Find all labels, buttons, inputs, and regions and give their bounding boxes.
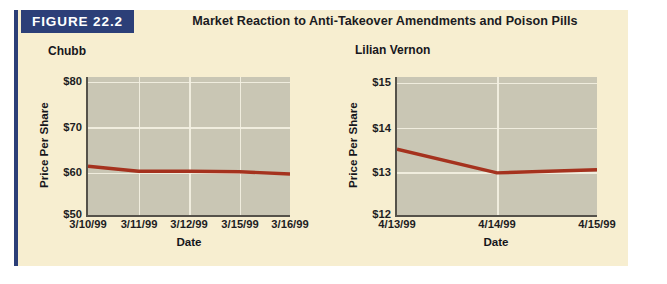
y-axis-title: Price Per Share	[346, 102, 359, 188]
x-tick-label: 3/12/99	[170, 218, 207, 230]
y-tick-label: $80	[40, 75, 82, 87]
y-tick-label: $15	[349, 76, 391, 88]
chart-lilian-vernon: Lilian Vernon $15 $14 $13 $12 4/13/99 4/…	[310, 0, 640, 284]
chart-chubb: Chubb $80 $70 $60 $50 3/10/99 3/11/99 3/…	[0, 0, 330, 284]
x-axis-title: Date	[483, 235, 508, 248]
x-axis-line	[86, 215, 290, 217]
x-axis-line	[395, 215, 597, 217]
x-tick-label: 3/10/99	[69, 218, 106, 230]
y-axis-line	[395, 77, 397, 217]
chart-subtitle: Lilian Vernon	[355, 43, 430, 57]
y-axis-title: Price Per Share	[37, 102, 50, 188]
y-axis-line	[86, 77, 88, 217]
figure-container: FIGURE 22.2 Market Reaction to Anti-Take…	[0, 0, 667, 284]
x-tick-label: 4/13/99	[378, 218, 415, 230]
x-tick-label: 4/14/99	[478, 218, 515, 230]
x-tick-label: 3/16/99	[271, 218, 308, 230]
chart-subtitle: Chubb	[48, 44, 86, 58]
series-line-chubb	[88, 77, 290, 215]
plot-area	[88, 77, 290, 215]
x-axis-title: Date	[176, 235, 201, 248]
plot-area	[397, 77, 597, 215]
x-tick-label: 3/11/99	[121, 218, 158, 230]
series-line-lilian-vernon	[397, 77, 597, 215]
x-tick-label: 4/15/99	[578, 218, 615, 230]
x-tick-label: 3/15/99	[221, 218, 258, 230]
